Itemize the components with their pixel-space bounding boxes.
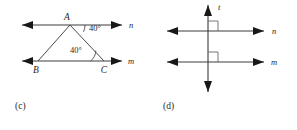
geometry-figure-panel: A B C n m 40° 40° (c) t n m (d) [0,0,297,130]
figure-d-right-angle-mark-at-m [208,52,218,62]
figure-c-diagram: A B C n m 40° 40° [0,0,150,100]
figure-c-angle-label-at-A: 40° [89,23,101,33]
figure-c-angle-label-at-C: 40° [70,45,82,55]
figure-d-line-label-m: m [271,57,277,67]
figure-c-line-n-left-arrowhead [22,21,33,29]
figure-c-line-m-left-arrowhead [22,57,33,65]
figure-d-line-label-t: t [218,2,221,12]
figure-d-line-n-right-arrowhead [253,27,264,35]
figure-d-diagram: t n m [150,0,297,100]
figure-c-segment-AB [38,25,70,61]
figure-d-right-angle-mark-at-n [208,21,218,31]
figure-c-vertex-label-C: C [101,65,108,75]
figure-d-line-label-n: n [272,26,276,36]
figure-d-line-m-right-arrowhead [253,58,264,66]
figure-c-line-label-m: m [128,56,134,66]
figure-d-line-n-left-arrowhead [167,27,178,35]
figure-c-angle-arc-at-A [84,25,86,32]
figure-c-vertex-label-A: A [63,12,70,22]
figure-d-line-t-top-arrowhead [204,5,212,16]
figure-c-line-n-right-arrowhead [111,21,122,29]
figure-d-line-m-left-arrowhead [167,58,178,66]
figure-c-line-m-right-arrowhead [111,57,122,65]
figure-d-caption: (d) [163,101,174,111]
figure-c-vertex-label-B: B [33,65,39,75]
figure-c-line-label-n: n [129,20,133,30]
figure-d-line-t-bottom-arrowhead [204,81,212,92]
figure-c-caption: (c) [15,101,26,111]
